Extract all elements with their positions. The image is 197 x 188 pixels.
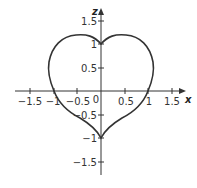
z-tick-label: 0.5 — [81, 63, 97, 74]
x-axis-label: x — [184, 94, 192, 105]
z-axis-arrow-icon — [98, 8, 104, 15]
x-tick-label: −0.5 — [66, 96, 90, 107]
z-tick-label: −1.5 — [73, 157, 97, 168]
x-tick-label: −1 — [46, 96, 61, 107]
x-tick-label: −1.5 — [18, 96, 42, 107]
x-tick-label: 1.5 — [164, 96, 180, 107]
z-tick-label: −1 — [82, 133, 97, 144]
z-tick-label: 1.5 — [81, 16, 97, 27]
z-axis-label: z — [91, 6, 98, 17]
z-tick-label: 1 — [91, 39, 97, 50]
heart-chart: −1.5 −1 −0.5 0.5 1 1.5 0 x 1.5 1 0.5 −0.… — [0, 0, 197, 188]
origin-label: 0 — [93, 94, 99, 105]
x-tick-label: 1 — [146, 96, 152, 107]
x-tick-label: 0.5 — [118, 96, 134, 107]
